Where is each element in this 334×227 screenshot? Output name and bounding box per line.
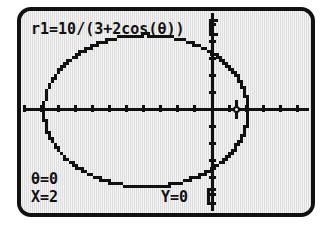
calculator-screenshot: r1=10/(3+2cos(θ)) θ=0 X=2 Y=0	[0, 0, 334, 227]
x-axis-tick	[23, 105, 26, 112]
trace-cursor-block	[207, 188, 216, 205]
x-axis-tick	[159, 105, 162, 112]
x-axis-tick	[296, 105, 299, 112]
y-axis-tick	[209, 142, 216, 145]
equation-label: r1=10/(3+2cos(θ))	[31, 21, 185, 37]
trace-cursor[interactable]	[231, 104, 242, 115]
y-axis-tick	[209, 159, 216, 162]
y-axis-tick	[209, 40, 216, 43]
x-axis-tick	[193, 105, 196, 112]
x-axis-tick	[176, 105, 179, 112]
y-axis-tick	[209, 176, 216, 179]
x-axis	[23, 108, 309, 111]
x-axis-tick	[74, 105, 77, 112]
y-axis-tick	[209, 91, 216, 94]
theta-readout: θ=0	[31, 171, 58, 187]
x-axis-tick	[279, 105, 282, 112]
polar-curve-trace	[21, 11, 315, 217]
x-axis-tick	[91, 105, 94, 112]
x-axis-tick	[108, 105, 111, 112]
graph-plot-area[interactable]	[21, 11, 311, 213]
lcd-surface: r1=10/(3+2cos(θ)) θ=0 X=2 Y=0	[21, 11, 311, 213]
lcd-bezel: r1=10/(3+2cos(θ)) θ=0 X=2 Y=0	[17, 7, 315, 217]
x-axis-tick	[40, 105, 43, 112]
x-axis-tick	[262, 105, 265, 112]
y-axis-tick	[209, 125, 216, 128]
x-axis-tick	[142, 105, 145, 112]
y-readout: Y=0	[161, 189, 188, 205]
x-readout: X=2	[31, 189, 58, 205]
x-axis-tick	[57, 105, 60, 112]
equation-cursor-block	[209, 19, 218, 36]
y-axis-tick	[209, 57, 216, 60]
trace-cursor-ring	[233, 106, 240, 113]
y-axis-tick	[209, 74, 216, 77]
x-axis-tick	[125, 105, 128, 112]
